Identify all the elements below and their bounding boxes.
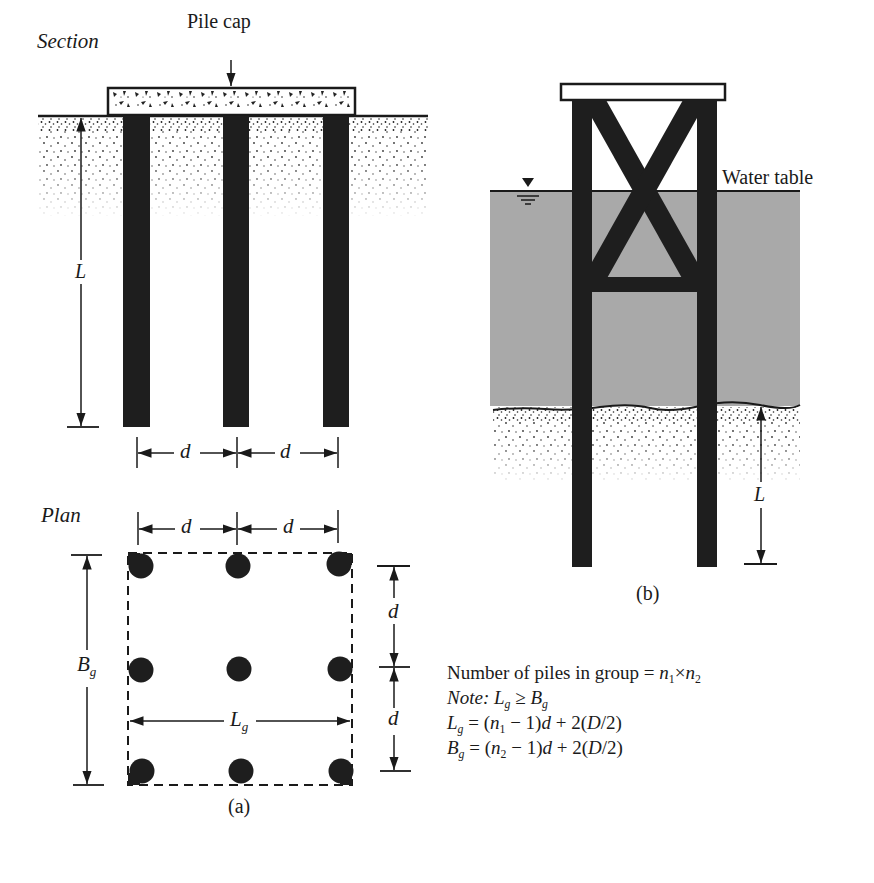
- section-label: Section: [37, 29, 99, 54]
- spacing-dimension-section: [137, 437, 338, 468]
- spacing-label: d: [388, 599, 399, 624]
- pile-leg: [697, 100, 717, 567]
- spacing-label: d: [180, 439, 191, 464]
- pile-grid: [128, 552, 354, 786]
- spacing-label: d: [388, 706, 399, 731]
- pile: [123, 116, 150, 427]
- plan-label: Plan: [41, 503, 81, 528]
- water-table-label: Water table: [722, 166, 813, 189]
- caption-a: (a): [228, 795, 250, 818]
- spacing-dimension-plan-top: [138, 510, 338, 545]
- pile-plan: [129, 658, 154, 683]
- spacing-label: d: [181, 514, 192, 539]
- caption-b: (b): [636, 582, 659, 605]
- spacing-label: d: [283, 514, 294, 539]
- pile: [323, 116, 349, 427]
- deck: [561, 84, 725, 100]
- note-inequality: Note: Lg ≥ Bg: [447, 687, 701, 712]
- seabed-soil: [493, 407, 800, 485]
- pile-leg: [572, 100, 592, 567]
- formula-group-length: Lg = (n1 − 1)d + 2(D/2): [447, 712, 701, 737]
- panel-a-plan: [71, 510, 411, 785]
- pile-plan: [226, 554, 251, 579]
- pile-plan: [229, 759, 254, 784]
- pile-cap-label: Pile cap: [187, 10, 251, 33]
- length-label: L: [74, 260, 87, 283]
- notes-block: Number of piles in group = n1×n2 Note: L…: [447, 662, 701, 762]
- pile-group-figure: [0, 0, 874, 883]
- pile: [223, 116, 249, 427]
- group-width-label: Bg: [77, 652, 96, 677]
- spacing-dimension-plan-right: [377, 566, 411, 771]
- spacing-label: d: [280, 439, 291, 464]
- group-length-label: Lg: [228, 707, 250, 732]
- panel-a-section: [38, 60, 428, 468]
- embedment-label: L: [754, 483, 765, 506]
- water-body: [490, 191, 800, 406]
- horizontal-brace: [592, 277, 697, 292]
- note-pile-count: Number of piles in group = n1×n2: [447, 662, 701, 687]
- pile-plan: [328, 657, 353, 682]
- pile-plan: [227, 657, 252, 682]
- formula-group-width: Bg = (n2 − 1)d + 2(D/2): [447, 737, 701, 762]
